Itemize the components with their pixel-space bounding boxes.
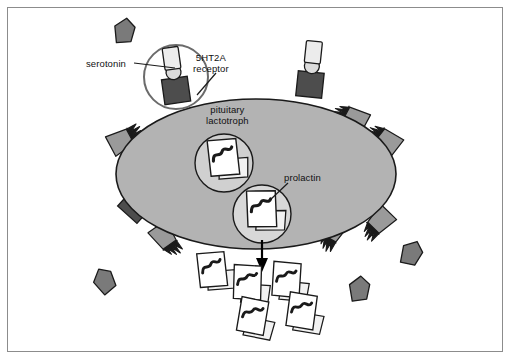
serotonin-free-molecule [347,275,370,304]
serotonin-free-molecule [90,265,119,297]
label-pituitary-lactotroph-line2: lactotroph [206,115,249,126]
prolactin-released [286,292,324,335]
label-5ht2a-receptor-line2: receptor [193,63,229,74]
diagram-figure: serotonin 5HT2A receptor pituitary lacto… [0,0,512,361]
label-serotonin: serotonin [86,58,126,69]
serotonin-free-molecule [396,237,426,269]
serotonin-free-molecule [112,16,137,46]
label-5ht2a-receptor: 5HT2A receptor [193,52,229,74]
label-prolactin: prolactin [284,172,321,183]
diagram-canvas [0,0,512,361]
label-pituitary-lactotroph-line1: pituitary [206,104,249,115]
label-5ht2a-receptor-line1: 5HT2A [193,52,229,63]
label-pituitary-lactotroph: pituitary lactotroph [206,104,249,126]
receptor-top-left [157,46,191,105]
receptor-top-right [296,40,328,98]
vesicle-secretory [233,185,291,243]
leader-line-receptor [197,73,216,95]
prolactin-released [192,246,239,297]
prolactin-released [236,297,276,341]
